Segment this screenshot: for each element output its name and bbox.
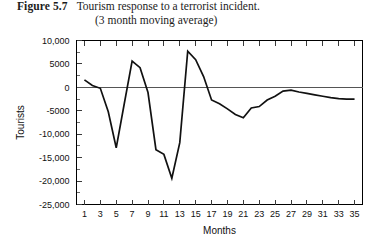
x-tick-label: 23 bbox=[254, 209, 264, 219]
x-tick-label: 27 bbox=[286, 209, 296, 219]
y-tick-label: 5000 bbox=[49, 59, 69, 69]
y-tick-label: -10,000 bbox=[39, 129, 70, 139]
x-tick-label: 35 bbox=[350, 209, 360, 219]
y-tick-label: -15,000 bbox=[39, 153, 70, 163]
y-tick-label: 10,000 bbox=[42, 36, 70, 46]
x-tick-label: 3 bbox=[98, 209, 103, 219]
y-tick-label: -20,000 bbox=[39, 176, 70, 186]
x-tick-label: 11 bbox=[159, 209, 168, 219]
x-tick-label: 9 bbox=[145, 209, 150, 219]
tourism-response-line-chart: 10,00050000-5000-10,000-15,000-20,000-25… bbox=[0, 0, 375, 246]
x-tick-label: 21 bbox=[238, 209, 248, 219]
chart-canvas: 10,00050000-5000-10,000-15,000-20,000-25… bbox=[0, 0, 375, 246]
x-axis-title: Months bbox=[203, 225, 236, 236]
x-tick-label: 19 bbox=[222, 209, 232, 219]
x-tick-label: 1 bbox=[82, 209, 87, 219]
x-tick-label: 33 bbox=[334, 209, 344, 219]
x-tick-label: 25 bbox=[270, 209, 280, 219]
y-tick-label: -5000 bbox=[46, 106, 69, 116]
x-tick-label: 31 bbox=[318, 209, 328, 219]
y-axis-tick-labels: 10,00050000-5000-10,000-15,000-20,000-25… bbox=[39, 36, 70, 210]
x-tick-label: 29 bbox=[302, 209, 312, 219]
y-tick-label: -25,000 bbox=[39, 200, 70, 210]
y-tick-label: 0 bbox=[64, 83, 69, 93]
x-axis-tick-labels: 1357911131517192123252729313335 bbox=[82, 209, 360, 219]
x-tick-label: 17 bbox=[207, 209, 217, 219]
x-tick-label: 13 bbox=[175, 209, 185, 219]
plot-frame bbox=[77, 41, 363, 205]
x-tick-label: 15 bbox=[191, 209, 201, 219]
x-tick-label: 5 bbox=[114, 209, 119, 219]
y-axis-title: Tourists bbox=[15, 105, 26, 139]
x-tick-label: 7 bbox=[130, 209, 135, 219]
